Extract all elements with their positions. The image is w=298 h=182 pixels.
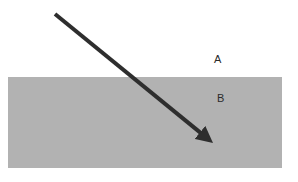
diagram-canvas: A B: [0, 0, 298, 182]
region-label-b: B: [217, 93, 225, 104]
region-label-a: A: [214, 54, 222, 65]
incident-ray-graphic: [0, 0, 298, 182]
ray-line: [55, 14, 205, 136]
